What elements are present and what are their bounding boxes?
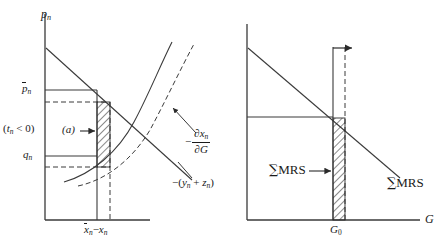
x-axis-difference-label: xn−xn xyxy=(84,224,107,237)
upward-supply-curve xyxy=(64,42,172,182)
sum-mrs-right-label: ∑MRS xyxy=(387,176,424,189)
shifted-supply-curve-dashed xyxy=(78,44,194,186)
figure-root: pn pn qn (tn < 0) (a) xn−xn −∂xn∂G −(yn … xyxy=(0,0,443,248)
tax-note-label: (tn < 0) xyxy=(3,123,34,136)
q-n-tick-label: qn xyxy=(23,149,32,162)
sum-mrs-curve xyxy=(248,48,400,178)
left-y-axis-label: pn xyxy=(41,8,51,22)
hatched-area-a xyxy=(97,102,110,167)
G-zero-tick-label: G0 xyxy=(330,224,342,237)
area-a-label: (a) xyxy=(62,124,75,135)
downward-demand-line xyxy=(46,48,192,180)
minus-y-plus-z-label: −(yn + zn) xyxy=(172,177,214,190)
right-x-axis-label: G xyxy=(425,213,434,225)
right-panel-group xyxy=(247,24,420,220)
p-bar-n-tick-label: pn xyxy=(22,83,31,96)
sum-mrs-left-label: ∑MRS xyxy=(269,163,306,176)
hatched-area-right xyxy=(333,118,345,220)
partial-x-partial-G-label: −∂xn∂G xyxy=(185,128,210,155)
